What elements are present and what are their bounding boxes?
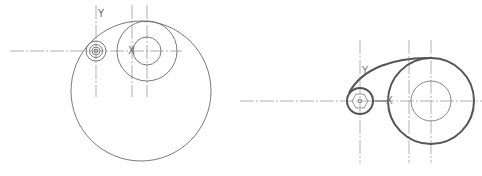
y-axis-label: Y bbox=[97, 8, 105, 19]
cad-drawing: YX YX bbox=[0, 0, 482, 176]
x-axis-label: X bbox=[128, 45, 135, 56]
left-figure: YX bbox=[10, 5, 211, 161]
right-figure: YX bbox=[240, 40, 482, 163]
y-axis-label: Y bbox=[361, 65, 369, 76]
x-axis-label: X bbox=[386, 95, 393, 106]
